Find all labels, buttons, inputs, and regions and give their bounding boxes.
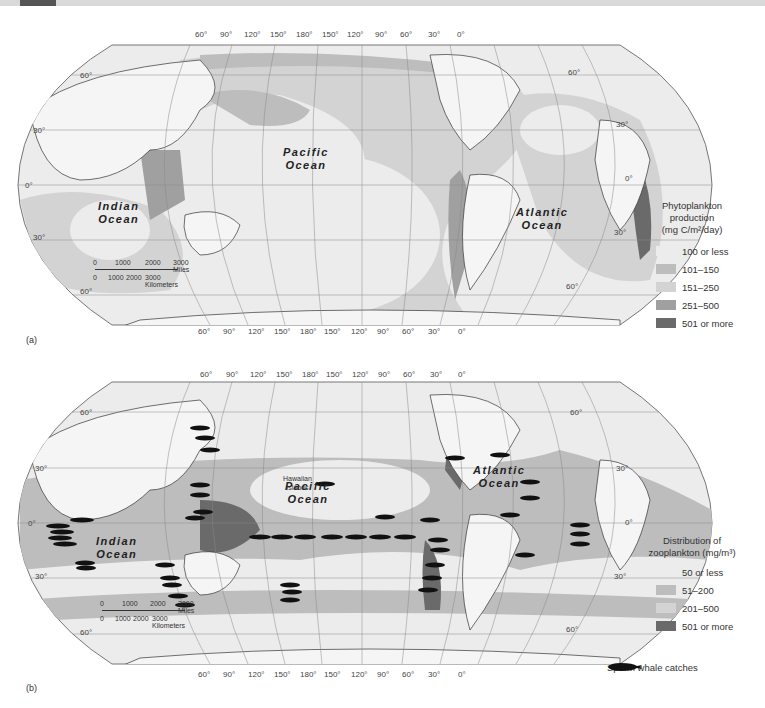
- longitude-label: 30°: [430, 370, 442, 379]
- latitude-label: 0°: [625, 518, 633, 527]
- whale-legend: Sperm whale catches: [607, 662, 698, 673]
- longitude-label: 90°: [223, 670, 235, 679]
- legend-title: Distribution of zooplankton (mg/m³): [642, 535, 742, 559]
- longitude-label: 90°: [377, 670, 389, 679]
- longitude-label: 90°: [375, 30, 387, 39]
- longitude-label: 30°: [428, 327, 440, 336]
- legend-title: Phytoplankton production (mg C/m²/day): [652, 200, 732, 236]
- latitude-label: 60°: [570, 408, 582, 417]
- latitude-label: 60°: [566, 282, 578, 291]
- legend-swatch: [656, 264, 676, 274]
- panel-label-b: (b): [26, 683, 37, 693]
- longitude-label: 60°: [403, 370, 415, 379]
- longitude-label: 180°: [302, 370, 319, 379]
- longitude-label: 150°: [324, 327, 341, 336]
- legend-item: 101–150: [656, 260, 765, 278]
- latitude-label: 30°: [614, 572, 626, 581]
- longitude-label: 60°: [402, 327, 414, 336]
- legend-swatch: [656, 585, 676, 595]
- legend-item: 201–500: [656, 599, 765, 617]
- legend-item: 151–250: [656, 278, 765, 296]
- latitude-label: 60°: [80, 71, 92, 80]
- legend-item: 501 or more: [656, 314, 765, 332]
- zooplankton-map-graphic: [0, 360, 765, 708]
- legend-swatch: [656, 318, 676, 328]
- latitude-label: 60°: [80, 287, 92, 296]
- panel-label-a: (a): [26, 335, 37, 345]
- longitude-label: 60°: [198, 670, 210, 679]
- longitude-label: 30°: [428, 30, 440, 39]
- hawaiian-islands-label: Hawaiian Islands: [283, 474, 312, 492]
- latitude-label: 60°: [566, 625, 578, 634]
- longitude-label: 150°: [274, 670, 291, 679]
- latitude-label: 60°: [568, 68, 580, 77]
- phytoplankton-map: 60° 90° 120° 150° 180° 150° 120° 90° 60°…: [0, 0, 765, 345]
- latitude-label: 30°: [33, 126, 45, 135]
- longitude-label: 0°: [457, 30, 465, 39]
- ocean-label-indian: IndianOcean: [98, 200, 139, 226]
- latitude-label: 0°: [625, 174, 633, 183]
- longitude-label: 60°: [200, 370, 212, 379]
- longitude-label: 90°: [377, 327, 389, 336]
- longitude-label: 150°: [326, 370, 343, 379]
- longitude-label: 120°: [351, 327, 368, 336]
- latitude-label: 60°: [80, 628, 92, 637]
- legend-item: 251–500: [656, 296, 765, 314]
- longitude-label: 180°: [296, 30, 313, 39]
- longitude-label: 90°: [226, 370, 238, 379]
- longitude-label: 30°: [428, 670, 440, 679]
- latitude-label: 30°: [35, 572, 47, 581]
- ocean-label-atlantic: AtlanticOcean: [473, 464, 525, 490]
- zooplankton-legend: Distribution of zooplankton (mg/m³) 50 o…: [656, 535, 765, 635]
- longitude-label: 150°: [322, 30, 339, 39]
- legend-swatch: [656, 567, 676, 577]
- legend-item: 501 or more: [656, 617, 765, 635]
- latitude-label: 30°: [35, 464, 47, 473]
- longitude-label: 90°: [223, 327, 235, 336]
- longitude-label: 90°: [220, 30, 232, 39]
- ocean-label-indian: IndianOcean: [96, 535, 137, 561]
- latitude-label: 30°: [614, 228, 626, 237]
- legend-swatch: [656, 282, 676, 292]
- latitude-label: 60°: [80, 408, 92, 417]
- longitude-label: 150°: [270, 30, 287, 39]
- legend-swatch: [656, 603, 676, 613]
- longitude-label: 120°: [351, 670, 368, 679]
- latitude-label: 0°: [25, 181, 33, 190]
- legend-item: 100 or less: [656, 242, 765, 260]
- legend-swatch: [656, 300, 676, 310]
- latitude-label: 30°: [616, 464, 628, 473]
- latitude-label: 30°: [616, 120, 628, 129]
- longitude-label: 150°: [274, 327, 291, 336]
- ocean-label-atlantic: AtlanticOcean: [516, 206, 568, 232]
- phytoplankton-map-graphic: [0, 0, 765, 345]
- legend-item: 50 or less: [656, 563, 765, 581]
- longitude-label: 120°: [347, 30, 364, 39]
- latitude-label: 30°: [33, 233, 45, 242]
- scale-bar: 0 1000 2000 3000 Miles 0 1000 2000 3000 …: [93, 259, 193, 289]
- longitude-label: 60°: [400, 30, 412, 39]
- longitude-label: 60°: [195, 30, 207, 39]
- longitude-label: 180°: [300, 670, 317, 679]
- scale-bar: 0 1000 2000 3000 Miles 0 1000 2000 3000 …: [100, 600, 200, 630]
- zooplankton-map: 60° 90° 120° 150° 180° 150° 120° 90° 60°…: [0, 360, 765, 708]
- legend-item: 51–200: [656, 581, 765, 599]
- sperm-whale-icon: [607, 662, 643, 672]
- longitude-label: 120°: [352, 370, 369, 379]
- longitude-label: 0°: [458, 370, 466, 379]
- longitude-label: 0°: [458, 327, 466, 336]
- legend-swatch: [656, 621, 676, 631]
- longitude-label: 60°: [402, 670, 414, 679]
- latitude-label: 0°: [28, 519, 36, 528]
- longitude-label: 180°: [300, 327, 317, 336]
- longitude-label: 120°: [244, 30, 261, 39]
- phytoplankton-legend: Phytoplankton production (mg C/m²/day) 1…: [656, 200, 765, 332]
- longitude-label: 150°: [276, 370, 293, 379]
- longitude-label: 120°: [248, 327, 265, 336]
- longitude-label: 60°: [198, 327, 210, 336]
- longitude-label: 120°: [248, 670, 265, 679]
- longitude-label: 150°: [324, 670, 341, 679]
- legend-swatch: [656, 246, 676, 256]
- longitude-label: 90°: [378, 370, 390, 379]
- longitude-label: 120°: [250, 370, 267, 379]
